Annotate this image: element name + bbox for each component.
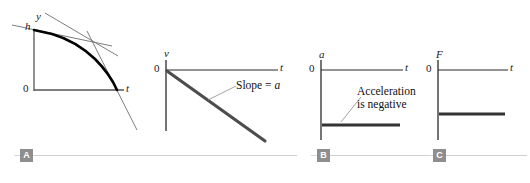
a-axis-label: a [319,49,325,60]
physics-free-fall-figure: y h 0 t v 0 t Slope = a [0,0,530,183]
panel-marker-a-label: A [20,149,33,162]
panel-marker-b-label: B [317,149,330,162]
acceleration-time-plot [305,0,420,150]
t-axis-label-position: t [126,83,129,94]
origin-label-acceleration: 0 [309,63,315,74]
position-time-plot [0,0,150,150]
origin-label-force: 0 [426,63,432,74]
marker-rule-a [33,155,297,156]
force-time-plot [420,0,530,150]
acceleration-annotation-line1: Acceleration [357,85,416,98]
F-axis-label: F [436,49,443,60]
position-curve [34,30,117,90]
origin-label-velocity: 0 [154,63,160,74]
panel-marker-a: A [14,149,297,162]
panel-marker-b: B [311,149,429,162]
slope-leader-line [208,86,236,100]
panel-marker-c: C [427,149,527,162]
height-label: h [25,21,31,32]
y-axis-label: y [36,11,41,22]
slope-annotation: Slope = a [236,79,280,92]
v-axis-label: v [164,48,169,59]
acceleration-annotation-line2: is negative [357,98,416,111]
marker-rule-c [446,155,527,156]
panel-marker-c-label: C [433,149,446,162]
slope-annotation-symbol: a [274,79,280,91]
t-axis-label-force: t [510,62,513,73]
t-axis-label-velocity: t [280,62,283,73]
velocity-time-plot [150,0,305,150]
marker-rule-b [330,155,429,156]
slope-annotation-text: Slope = [236,79,274,91]
t-axis-label-acceleration: t [405,62,408,73]
origin-label-position: 0 [23,83,29,94]
acceleration-annotation: Acceleration is negative [357,85,416,111]
